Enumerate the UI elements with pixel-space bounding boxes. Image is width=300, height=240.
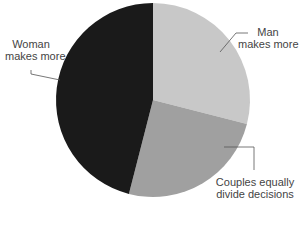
label-man: Man makes more (238, 26, 298, 50)
leader-woman (31, 70, 60, 80)
label-woman-line2: makes more (5, 50, 57, 62)
label-couples-line2: divide decisions (214, 188, 296, 200)
label-couples-line1: Couples equally (214, 176, 296, 188)
label-man-line1: Man (238, 26, 298, 38)
label-woman: Woman makes more (5, 38, 57, 62)
label-man-line2: makes more (238, 38, 298, 50)
label-couples: Couples equally divide decisions (214, 176, 296, 200)
label-woman-line1: Woman (5, 38, 57, 50)
